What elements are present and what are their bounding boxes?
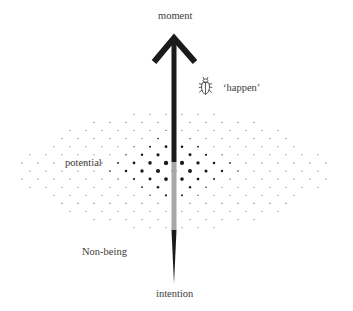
label-non-being: Non-being [82,247,127,258]
arrow-shaft-upper [172,40,177,162]
beetle-icon [198,76,213,97]
label-happen: ‘happen’ [223,83,260,94]
up-arrow-icon [0,0,353,311]
arrow-shaft-gray [172,162,177,230]
label-intention: intention [156,289,193,300]
arrow-tail-taper [172,230,177,284]
label-potential: potential [65,158,102,169]
label-moment: moment [158,11,192,22]
